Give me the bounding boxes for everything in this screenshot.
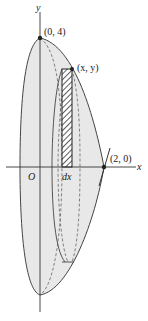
- label-point-2-0: (2, 0): [110, 153, 132, 165]
- x-axis-label: x: [136, 161, 142, 172]
- point-2-0: [102, 165, 106, 169]
- point-0-4: [38, 36, 42, 40]
- hatched-strip: [62, 69, 72, 167]
- label-point-0-4: (0, 4): [44, 26, 66, 38]
- origin-label: O: [28, 171, 35, 182]
- strip-width-label: dx: [62, 171, 72, 182]
- point-x-y: [70, 67, 74, 71]
- label-point-x-y: (x, y): [77, 62, 99, 74]
- y-axis-label: y: [35, 2, 41, 13]
- solid-of-revolution-diagram: y x O (0, 4) (x, y) (2, 0) dx: [0, 0, 148, 321]
